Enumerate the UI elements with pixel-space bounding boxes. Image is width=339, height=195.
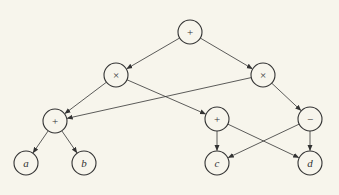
edge-arrow-root-to-mulR xyxy=(200,38,252,69)
node-label: × xyxy=(113,69,119,81)
node-mulR: × xyxy=(251,63,275,87)
node-label: b xyxy=(81,157,87,169)
edge-arrow-root-to-mulL xyxy=(127,38,180,69)
edge-arrow-addL-to-b xyxy=(62,131,77,153)
node-a: a xyxy=(14,151,38,175)
node-label: − xyxy=(307,113,313,125)
node-label: a xyxy=(23,157,29,169)
node-b: b xyxy=(72,151,96,175)
edges-layer xyxy=(33,38,310,158)
node-label: × xyxy=(260,69,266,81)
node-addM: + xyxy=(205,107,229,131)
node-label: + xyxy=(52,115,58,127)
edge-arrow-mulL-to-addM xyxy=(127,80,206,114)
expression-dag-diagram: +××++−abcd xyxy=(0,0,339,195)
node-label: d xyxy=(307,157,313,169)
node-label: + xyxy=(214,113,220,125)
dag-canvas: +××++−abcd xyxy=(0,0,339,195)
node-root: + xyxy=(178,20,202,44)
node-addL: + xyxy=(43,109,67,133)
node-c: c xyxy=(205,151,229,175)
edge-arrow-addL-to-a xyxy=(33,131,48,153)
node-mulL: × xyxy=(104,63,128,87)
node-sub: − xyxy=(298,107,322,131)
node-label: c xyxy=(215,157,220,169)
node-label: + xyxy=(187,26,193,38)
edge-arrow-mulR-to-sub xyxy=(272,83,301,110)
edge-arrow-mulL-to-addL xyxy=(65,82,106,113)
node-d: d xyxy=(298,151,322,175)
